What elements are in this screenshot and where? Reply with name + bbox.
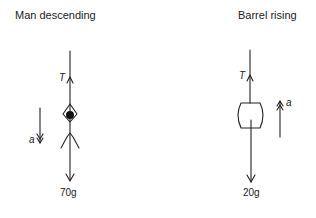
barrel-tension-label: T xyxy=(239,70,245,81)
man-head-icon xyxy=(66,111,74,119)
barrel-weight-label: 20g xyxy=(243,187,260,198)
man-accel-label: a xyxy=(29,134,35,145)
barrel-accel-label: a xyxy=(286,97,292,108)
man-weight-label: 70g xyxy=(60,187,77,198)
man-tension-label: T xyxy=(59,72,65,83)
free-body-diagrams xyxy=(0,0,316,218)
